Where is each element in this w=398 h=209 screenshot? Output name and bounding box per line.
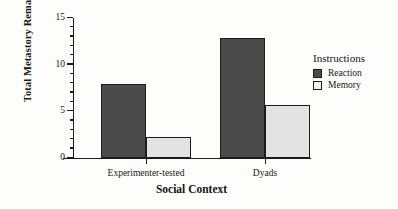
y-axis-tick-label: 15: [56, 13, 66, 23]
y-axis-minor-tick: [70, 73, 74, 74]
y-axis-major-tick: [67, 63, 73, 64]
y-axis-major-tick: [67, 157, 73, 158]
y-axis-minor-tick: [70, 119, 74, 120]
bar-experimenter-tested-memory: [146, 137, 191, 158]
x-axis-category-label: Experimenter-tested: [108, 168, 185, 178]
legend-swatch-icon: [313, 81, 322, 90]
x-axis-category-label: Dyads: [253, 168, 277, 178]
bar-experimenter-tested-reaction: [101, 84, 146, 158]
y-axis-tick-label: 10: [56, 60, 66, 70]
x-axis-line: [63, 158, 311, 159]
y-axis-minor-tick: [70, 45, 74, 46]
plot-area: 051015 Experimenter-testedDyads: [73, 18, 310, 158]
y-axis-minor-tick: [70, 129, 74, 130]
x-axis-title: Social Context: [73, 183, 310, 195]
y-axis-minor-tick: [70, 82, 74, 83]
y-axis-major-tick: [67, 110, 73, 111]
legend-swatch-icon: [313, 69, 322, 78]
y-axis-line: [73, 18, 74, 159]
x-axis-tick: [265, 158, 266, 164]
legend-entry-memory: Memory: [313, 80, 397, 90]
y-axis-minor-tick: [70, 35, 74, 36]
bar-dyads-reaction: [220, 38, 265, 158]
bar-chart-figure: Total Metastory Remarks 051015 Experimen…: [0, 0, 398, 209]
y-axis-title: Total Metastory Remarks: [22, 0, 33, 119]
legend-entry-label: Reaction: [328, 68, 362, 78]
legend-entry-label: Memory: [328, 80, 361, 90]
legend-title: Instructions: [313, 52, 397, 64]
y-axis-minor-tick: [70, 147, 74, 148]
y-axis-tick-label: 0: [60, 153, 65, 163]
legend-entry-reaction: Reaction: [313, 68, 397, 78]
legend-entries: ReactionMemory: [313, 68, 397, 90]
y-axis-major-tick: [67, 17, 73, 18]
y-axis-minor-tick: [70, 54, 74, 55]
y-axis-minor-tick: [70, 101, 74, 102]
y-axis-minor-tick: [70, 26, 74, 27]
y-axis-minor-tick: [70, 91, 74, 92]
y-axis-minor-tick: [70, 138, 74, 139]
bar-dyads-memory: [265, 105, 310, 158]
x-axis-tick: [146, 158, 147, 164]
y-axis-tick-label: 5: [60, 107, 65, 117]
legend: Instructions ReactionMemory: [313, 52, 397, 92]
